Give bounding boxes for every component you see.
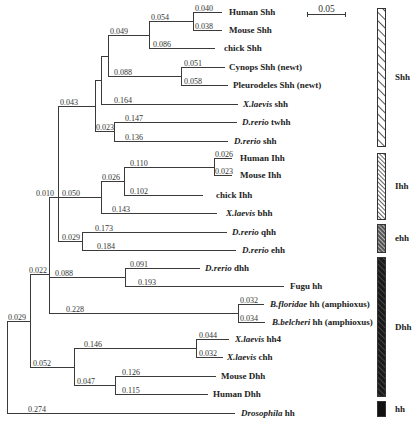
leaf-drerio-qhh: D.rerio qhh [231,227,276,237]
branch-length-label: 0.038 [195,22,213,31]
branch-length-label: 0.043 [60,98,78,107]
group-label-dhh: Dhh [395,322,412,332]
leaf-species: X.laevis [226,352,257,362]
branch-length-label: 0.029 [8,313,26,322]
leaf-gene: Mouse Shh [229,25,272,35]
branch-length-label: 0.274 [28,405,46,414]
leaf-gene: hh [283,408,295,418]
leaf-gene: shh [272,99,288,109]
branch-length-label: 0.023 [96,123,114,132]
group-label-hh: hh [395,404,405,414]
group-bar-hh [378,402,386,417]
leaf-xlaevis-shh: X.laevis shh [242,99,288,109]
leaf-xlaevis-chh: X.laevis chh [226,352,273,362]
leaf-gene: Fugu hh [290,281,322,291]
leaf-xlaevis-hh4: X.laevis hh4 [234,334,282,344]
leaf-bbelcheri-hh: B.belcheri hh (amphioxus) [271,317,373,327]
branch-length-label: 0.040 [195,4,213,13]
branch-length-label: 0.026 [215,150,233,159]
branch-length-label: 0.136 [125,133,143,142]
branch-length-label: 0.088 [114,68,132,77]
leaf-species: D.rerio [204,263,232,273]
leaf-gene: Human Ihh [240,153,285,163]
leaf-chick-shh: chick Shh [224,43,262,53]
leaf-labels: Human ShhMouse Shhchick ShhCynops Shh (n… [204,7,373,418]
group-label-ihh: Ihh [395,181,409,191]
leaf-gene: Human Shh [229,7,275,17]
leaf-human-shh: Human Shh [229,7,275,17]
leaf-species: D.rerio [241,245,269,255]
leaf-gene: Mouse Dhh [221,371,265,381]
branch-length-label: 0.034 [240,314,258,323]
branch-length-label: 0.173 [95,224,113,233]
branch-length-label: 0.126 [122,368,140,377]
branch-length-label: 0.049 [110,27,128,36]
group-bar-ihh [378,154,386,220]
group-bar-ehh [378,225,386,253]
leaf-gene: Pleurodeles Shh (newt) [233,80,321,90]
group-bar-shh [378,9,386,147]
leaf-drerio-ehh: D.rerio ehh [241,245,285,255]
leaf-mouse-dhh: Mouse Dhh [221,371,265,381]
branch-length-label: 0.051 [184,59,202,68]
leaf-mouse-shh: Mouse Shh [229,25,272,35]
leaf-human-ihh: Human Ihh [240,153,285,163]
leaf-xlaevis-bhh: X.laevis bhh [225,208,273,218]
group-bar-dhh [378,258,386,397]
branch-length-label: 0.026 [102,173,120,182]
branch-length-label: 0.029 [62,233,80,242]
leaf-pleuro-shh: Pleurodeles Shh (newt) [233,80,321,90]
branch-length-label: 0.102 [130,187,148,196]
leaf-species: B.floridae [269,299,307,309]
branch-length-label: 0.086 [153,40,171,49]
leaf-fugu-hh: Fugu hh [290,281,322,291]
branch-length-label: 0.010 [36,189,54,198]
branch-length-label: 0.164 [114,96,132,105]
leaf-gene: chh [256,352,272,362]
leaf-gene: shh [261,136,277,146]
group-label-ehh: ehh [395,233,409,243]
leaf-gene: hh (amphioxus) [307,299,370,309]
group-label-shh: Shh [395,72,410,82]
gene-group-bars: ShhIhhehhDhhhh [378,9,412,417]
branch-length-label: 0.047 [77,377,95,386]
branch-length-label: 0.058 [184,77,202,86]
branch-length-label: 0.115 [122,386,140,395]
leaf-gene: qhh [259,227,276,237]
branch-length-label: 0.050 [62,189,80,198]
branch-length-label: 0.032 [199,349,217,358]
leaf-chick-ihh: chick Ihh [216,190,252,200]
branch-length-label: 0.091 [130,260,148,269]
leaf-gene: ehh [269,245,285,255]
branch-length-label: 0.193 [138,278,156,287]
leaf-gene: Human Dhh [213,389,261,399]
leaf-species: Drosophila [240,408,283,418]
leaf-gene: chick Shh [224,43,262,53]
leaf-species: D.rerio [231,227,259,237]
leaf-mouse-ihh: Mouse Ihh [240,170,281,180]
leaf-drosophila-hh: Drosophila hh [240,408,295,418]
leaf-gene: dhh [232,263,249,273]
leaf-gene: Cynops Shh (newt) [229,62,302,72]
branch-length-label: 0.146 [84,340,102,349]
leaf-species: X.laevis [234,334,265,344]
leaf-species: X.laevis [242,99,273,109]
branch-length-label: 0.023 [215,167,233,176]
leaf-gene: Mouse Ihh [240,170,281,180]
branch-length-label: 0.088 [55,269,73,278]
phylogenetic-tree: 0.0400.0380.0540.0860.0490.0510.0580.088… [0,0,417,425]
leaf-gene: bhh [255,208,272,218]
leaf-gene: chick Ihh [216,190,252,200]
branch-length-label: 0.228 [66,305,84,314]
leaf-species: X.laevis [225,208,256,218]
branch-length-label: 0.032 [240,296,258,305]
scale-bar: 0.05 [307,4,346,17]
branch-length-label: 0.044 [199,331,217,340]
leaf-human-dhh: Human Dhh [213,389,261,399]
leaf-gene: twhh [269,117,291,127]
leaf-gene: hh (amphioxus) [310,317,373,327]
branch-length-label: 0.052 [33,359,51,368]
leaf-species: B.belcheri [271,317,311,327]
branch-length-label: 0.147 [125,114,143,123]
leaf-species: D.rerio [241,117,269,127]
